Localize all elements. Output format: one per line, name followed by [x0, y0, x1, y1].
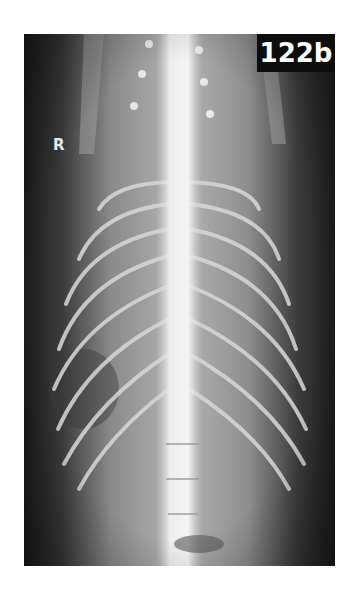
figure-label-badge: 122b	[257, 34, 335, 72]
radiograph-image: 122b R	[24, 34, 335, 566]
right-side-marker: R	[53, 136, 65, 154]
thorax-xray-graphic	[24, 34, 335, 566]
